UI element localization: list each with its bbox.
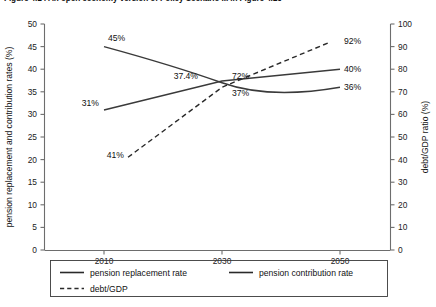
x-tick-label-2010: 2010 [95,256,114,266]
data-label-replacement-2030: 37% [232,88,250,98]
data-label-debt-2010: 41% [107,150,125,160]
left-tick-label-0: 0 [32,245,37,255]
left-tick-label-20: 20 [28,155,38,165]
right-tick-label-0: 0 [398,245,403,255]
series-debt-gdp [128,42,330,157]
data-label-debt-2030: 72% [232,71,250,81]
legend-label-replacement: pension replacement rate [90,268,187,278]
data-label-debt-2050: 92% [344,36,362,46]
left-axis-title: pension replacement and contribution rat… [4,47,14,228]
left-tick-label-35: 35 [28,87,38,97]
left-tick-label-5: 5 [32,222,37,232]
data-label-contribution-2010: 31% [82,98,100,108]
left-tick-label-45: 45 [28,42,38,52]
left-tick-label-40: 40 [28,64,38,74]
left-tick-label-25: 25 [28,132,38,142]
right-tick-label-20: 20 [398,200,408,210]
right-tick-label-100: 100 [398,19,412,29]
x-axis: 2010 2030 2050 [45,251,391,267]
figure-container: Figure 4.14 An open economy version of P… [0,0,436,307]
right-tick-label-40: 40 [398,155,408,165]
right-tick-label-80: 80 [398,64,408,74]
left-axis: 50 45 40 35 30 25 20 15 10 5 0 pension r… [4,19,45,255]
right-tick-label-60: 60 [398,109,408,119]
data-label-contribution-2030: 37.4% [174,71,199,81]
left-tick-label-30: 30 [28,109,38,119]
series-pension-contribution-rate [104,69,340,110]
data-label-contribution-2050: 40% [344,64,362,74]
right-axis: 100 90 80 70 60 50 40 30 20 10 0 debt/GD… [391,19,431,255]
right-tick-label-50: 50 [398,132,408,142]
right-tick-label-10: 10 [398,222,408,232]
x-tick-label-2050: 2050 [331,256,350,266]
left-tick-label-10: 10 [28,200,38,210]
x-tick-label-2030: 2030 [213,256,232,266]
legend-label-debt-gdp: debt/GDP [90,284,128,294]
right-axis-title: debt/GDP ratio (%) [420,101,430,174]
left-tick-label-15: 15 [28,177,38,187]
legend-label-contribution: pension contribution rate [259,268,353,278]
left-tick-label-50: 50 [28,19,38,29]
right-tick-label-70: 70 [398,87,408,97]
chart-canvas: 50 45 40 35 30 25 20 15 10 5 0 pension r… [0,0,436,307]
right-tick-label-30: 30 [398,177,408,187]
right-tick-label-90: 90 [398,42,408,52]
data-label-replacement-2050: 36% [344,82,362,92]
data-label-replacement-2010: 45% [108,33,126,43]
